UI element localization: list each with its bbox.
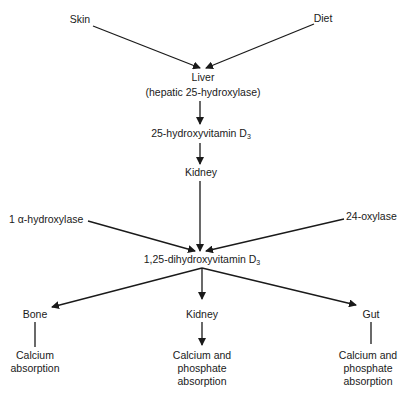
node-24-oxylase: 24-oxylase	[346, 210, 397, 223]
edge-skin-liver	[93, 26, 200, 68]
node-bone: Bone	[23, 308, 48, 321]
node-25-hydroxyvitamin-d3: 25-hydroxyvitamin D3	[151, 127, 251, 140]
kidney-effect-line-2: phosphate	[173, 362, 231, 375]
node-liver: Liver	[192, 71, 215, 84]
kidney-effect-line-3: absorption	[173, 375, 231, 388]
edge-1alpha-125ohd	[88, 221, 195, 251]
node-1-alpha-hydroxylase: 1 α-hydroxylase	[9, 213, 83, 226]
node-25-hydroxyvitamin-text: 25-hydroxyvitamin D	[151, 127, 247, 139]
node-1-25-dihydroxyvitamin-d3: 1,25-dihydroxyvitamin D3	[144, 253, 261, 266]
gut-effect-line-2: phosphate	[339, 362, 397, 375]
subscript-3: 3	[247, 133, 251, 140]
node-skin: Skin	[70, 13, 90, 26]
edge-125ohd-gut	[202, 268, 356, 305]
node-liver-enzyme: (hepatic 25-hydroxylase)	[146, 86, 261, 99]
bone-effect-line-1: Calcium	[10, 349, 59, 362]
node-bone-effect: Calcium absorption	[10, 349, 59, 375]
node-kidney-effect: Calcium and phosphate absorption	[173, 349, 231, 388]
node-1-25-dihydroxyvitamin-text: 1,25-dihydroxyvitamin D	[144, 253, 257, 265]
edge-24oxylase-125ohd	[206, 219, 344, 251]
node-diet: Diet	[314, 12, 333, 25]
subscript-3: 3	[256, 259, 260, 266]
diagram-connectors	[0, 0, 410, 399]
gut-effect-line-1: Calcium and	[339, 349, 397, 362]
edge-125ohd-bone	[52, 268, 202, 307]
bone-effect-line-2: absorption	[10, 362, 59, 375]
kidney-effect-line-1: Calcium and	[173, 349, 231, 362]
node-kidney-bottom: Kidney	[186, 308, 218, 321]
node-gut-effect: Calcium and phosphate absorption	[339, 349, 397, 388]
gut-effect-line-3: absorption	[339, 375, 397, 388]
edge-diet-liver	[206, 24, 314, 68]
node-gut: Gut	[363, 308, 380, 321]
node-kidney-top: Kidney	[185, 166, 217, 179]
